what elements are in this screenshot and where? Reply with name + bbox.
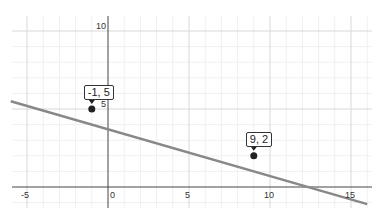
point-label: -1, 5: [84, 85, 114, 100]
label-pointer-icon: [89, 100, 95, 104]
x-tick-label: 0: [110, 190, 115, 200]
point-label: 9, 2: [246, 132, 272, 147]
data-point[interactable]: [250, 152, 257, 159]
label-pointer-icon: [251, 147, 257, 151]
x-tick-label: 10: [264, 190, 274, 200]
graph-canvas[interactable]: [0, 0, 381, 218]
coordinate-plane: [0, 0, 381, 218]
x-tick-label: 5: [185, 190, 190, 200]
y-tick-label: 10: [96, 21, 106, 31]
y-tick-label: 5: [101, 99, 106, 109]
x-tick-label: 15: [345, 190, 355, 200]
data-point[interactable]: [88, 106, 95, 113]
x-tick-label: -5: [21, 190, 29, 200]
